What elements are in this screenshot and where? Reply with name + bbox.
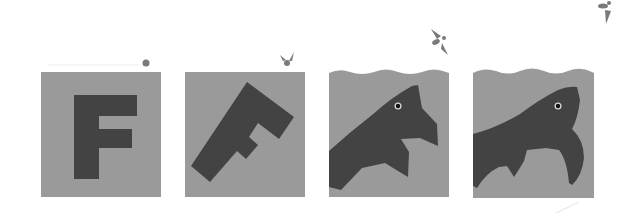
flyer-creature-icon	[431, 29, 448, 55]
panel-2	[185, 72, 305, 197]
figure	[0, 0, 636, 224]
panel-3	[329, 70, 449, 198]
flyer-dot-icon	[143, 60, 150, 67]
panel-1	[41, 65, 161, 197]
flyer-creature-icon	[598, 1, 611, 24]
flyer-bud-icon	[280, 52, 294, 66]
panel-4	[473, 69, 594, 199]
